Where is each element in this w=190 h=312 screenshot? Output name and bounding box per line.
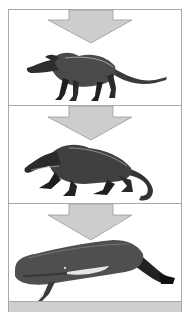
down-arrow-icon — [48, 106, 132, 140]
down-arrow-icon — [48, 10, 132, 43]
panel-stage-3 — [8, 203, 182, 302]
bottom-bar — [8, 301, 182, 312]
panel-stage-1 — [8, 9, 182, 106]
down-arrow-icon — [48, 204, 132, 240]
evolution-diagram — [8, 9, 182, 311]
pakicetus-illustration — [27, 53, 167, 101]
ambulocetus-illustration — [24, 145, 153, 201]
panel-stage-2 — [8, 105, 182, 204]
sperm-whale-illustration — [15, 240, 175, 302]
